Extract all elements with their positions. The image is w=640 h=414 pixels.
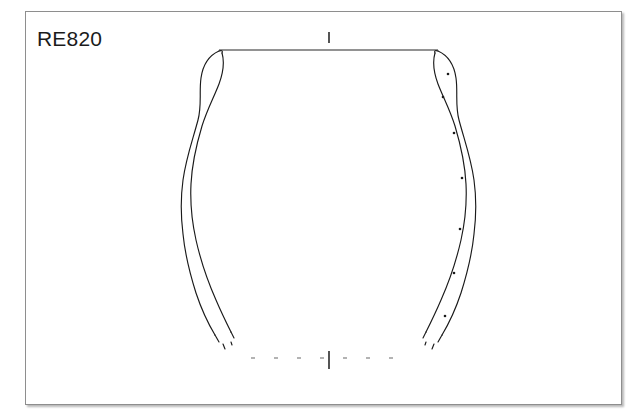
left-wall-break-edge-inner bbox=[231, 332, 234, 338]
left-wall-profile bbox=[181, 51, 234, 349]
inclusion-dot bbox=[461, 177, 464, 180]
right-rim-hook bbox=[435, 51, 438, 53]
inclusion-dot bbox=[453, 132, 456, 135]
rim-diameter-group bbox=[219, 32, 438, 50]
left-wall-break-edge bbox=[215, 335, 219, 342]
right-wall-break-fragment-a bbox=[432, 344, 434, 349]
right-wall-break-edge bbox=[438, 335, 442, 342]
inclusion-dot bbox=[444, 315, 447, 318]
plate-frame: RE820 bbox=[25, 11, 622, 405]
inclusion-dot bbox=[447, 73, 450, 76]
left-wall-inner-edge bbox=[191, 53, 231, 332]
inclusion-dot bbox=[442, 96, 445, 99]
inclusion-dot bbox=[459, 228, 462, 231]
base-reconstruction-group bbox=[251, 351, 406, 369]
left-wall-break-fragment-b bbox=[231, 342, 232, 345]
vessel-profile-drawing bbox=[26, 12, 623, 406]
left-wall-break-fragment-a bbox=[223, 344, 225, 349]
figure-root: RE820 bbox=[0, 0, 640, 414]
left-rim-hook bbox=[219, 51, 222, 53]
right-wall-profile bbox=[423, 51, 476, 349]
right-wall-inner-edge bbox=[426, 53, 466, 332]
inclusion-dot bbox=[453, 272, 456, 275]
right-wall-break-fragment-b bbox=[425, 342, 426, 345]
right-wall-break-edge-inner bbox=[423, 332, 426, 338]
